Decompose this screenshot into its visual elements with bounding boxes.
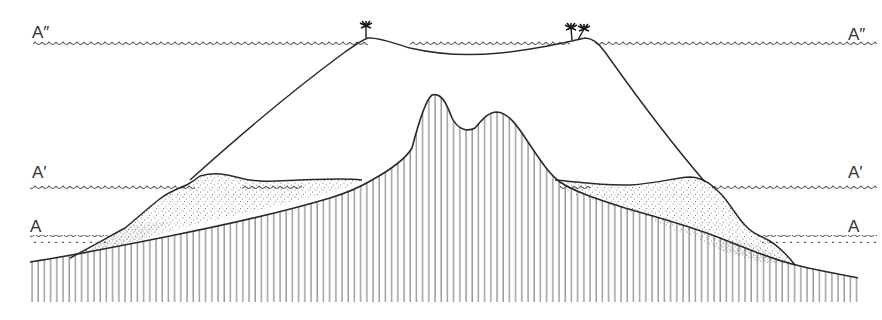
- palm-tree-icon: [565, 23, 577, 40]
- sea-level-a1-label-left: A′: [32, 164, 47, 181]
- sea-level-a2-label-right: A″: [848, 26, 865, 43]
- palm-tree-icon: [360, 21, 372, 38]
- sea-level-a0-label-left: A: [30, 218, 41, 235]
- sea-level-a2: [33, 41, 877, 49]
- volcanic-island-core: [30, 95, 858, 302]
- sea-level-a1-label-right: A′: [848, 164, 863, 181]
- sea-level-a0-label-right: A: [848, 218, 859, 235]
- sea-level-a2-label-left: A″: [32, 24, 49, 41]
- atoll-cross-section-diagram: A″ A″ A′ A′ A A: [0, 0, 882, 320]
- diagram-canvas: [0, 0, 882, 320]
